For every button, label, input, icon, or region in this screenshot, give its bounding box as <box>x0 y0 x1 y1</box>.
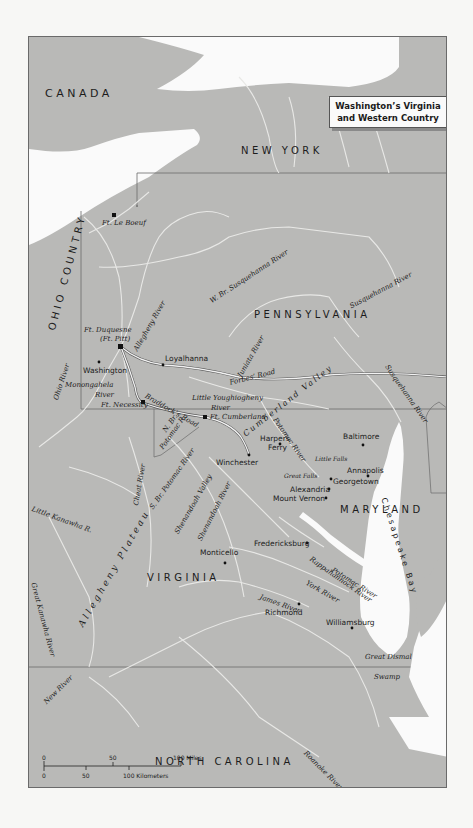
region-virginia: VIRGINIA <box>147 573 220 583</box>
lake-erie <box>29 129 200 245</box>
city-annapolis: Annapolis <box>347 467 384 475</box>
title-line-2: and Western Country <box>330 112 446 124</box>
map-frame: CANADA NEW YORK OHIO COUNTRY PENNSYLVANI… <box>28 36 447 788</box>
scale-km-100: 100 Kilometers <box>123 772 168 779</box>
scale-miles-50: 50 <box>109 754 117 761</box>
fort-le-boeuf: Ft. Le Boeuf <box>102 220 146 227</box>
region-canada: CANADA <box>45 88 113 99</box>
ny-pa-border <box>137 173 447 207</box>
fort-duquesne: Ft. Duquesne <box>84 327 132 334</box>
fort-pitt: (Ft. Pitt) <box>100 336 130 343</box>
river-little-youghiogheny: Little Youghiogheny <box>192 395 263 402</box>
scale-km-50: 50 <box>82 772 90 779</box>
river-little-youghiogheny-2: River <box>211 405 230 412</box>
region-new-york: NEW YORK <box>241 146 323 156</box>
city-baltimore: Baltimore <box>343 433 379 441</box>
city-ferry: Ferry <box>268 444 287 452</box>
feature-great-dismal: Great Dismal <box>365 654 412 661</box>
map-title: Washington’s Virginia and Western Countr… <box>329 96 447 128</box>
city-alexandria: Alexandria <box>290 486 330 494</box>
city-mount-vernon: Mount Vernon <box>273 495 325 503</box>
region-pennsylvania: PENNSYLVANIA <box>254 310 371 320</box>
city-winchester: Winchester <box>216 459 258 467</box>
city-williamsburg: Williamsburg <box>326 619 375 627</box>
city-washington: Washington <box>83 367 127 375</box>
feature-little-falls: Little Falls <box>315 456 347 462</box>
lake-ontario <box>139 37 399 91</box>
delaware-border <box>426 402 447 493</box>
river-monongahela: Monongahela <box>65 382 113 389</box>
city-georgetown: Georgetown <box>333 478 379 486</box>
scale-km-0: 0 <box>42 772 46 779</box>
scale-miles-100: 100 Miles <box>173 754 202 761</box>
title-line-1: Washington’s Virginia <box>330 100 446 112</box>
river-monongahela-2: River <box>95 392 114 399</box>
fort-necessity: Ft. Necessity <box>101 402 148 409</box>
city-loyalhanna: Loyalhanna <box>165 355 208 363</box>
city-monticello: Monticello <box>200 549 238 557</box>
scale-miles-0: 0 <box>42 754 46 761</box>
feature-great-falls: Great Falls <box>284 473 317 479</box>
feature-swamp: Swamp <box>374 674 400 681</box>
city-fredericksburg: Fredericksburg <box>254 540 309 548</box>
